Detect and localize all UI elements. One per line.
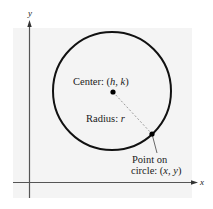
center-point — [110, 89, 115, 94]
y-axis-arrow-icon — [27, 20, 31, 27]
x-axis-label: x — [199, 177, 204, 187]
radius-label: Radius: r — [86, 113, 126, 124]
center-label: Center: (h, k) — [73, 76, 129, 88]
point-label-line1: Point on — [132, 154, 168, 165]
point-label-line2: circle: (x, y) — [131, 165, 182, 177]
circle-diagram: y x Center: (h, k) Radius: r Point on ci… — [0, 0, 213, 209]
y-axis-label: y — [27, 8, 32, 18]
x-axis-arrow-icon — [191, 180, 198, 184]
point-on-circle — [149, 131, 154, 136]
